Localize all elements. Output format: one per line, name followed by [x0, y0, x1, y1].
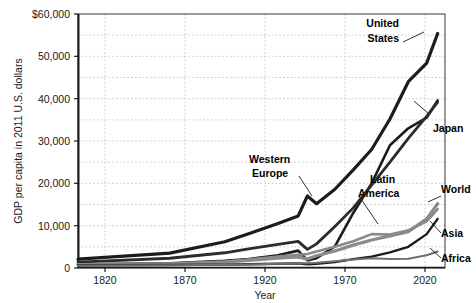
- y-tick-label-10000: 10,000: [38, 220, 70, 232]
- chart-svg: $60,000 50,000 40,000 30,000 20,000 10,0…: [0, 0, 476, 303]
- x-tick-label-1820: 1820: [93, 274, 117, 286]
- y-tick-label-40000: 40,000: [38, 93, 70, 105]
- series-label-western-europe-line1: Western: [249, 153, 290, 165]
- x-tick-label-1920: 1920: [253, 274, 277, 286]
- series-label-japan: Japan: [433, 122, 463, 134]
- x-tick-label-1870: 1870: [173, 274, 197, 286]
- y-axis-title: GDP per capita in 2011 U.S. dollars: [12, 58, 24, 223]
- series-label-africa: Africa: [441, 252, 471, 264]
- series-label-western-europe-line2: Europe: [252, 167, 288, 179]
- y-tick-label-0: 0: [64, 262, 70, 274]
- x-axis-title: Year: [254, 289, 276, 301]
- x-tick-label-1970: 1970: [333, 274, 357, 286]
- gdp-per-capita-chart: $60,000 50,000 40,000 30,000 20,000 10,0…: [0, 0, 476, 303]
- series-label-world: World: [441, 183, 471, 195]
- series-label-latin-america-line2: America: [358, 187, 400, 199]
- y-tick-label-50000: 50,000: [38, 50, 70, 62]
- x-tick-label-2020: 2020: [413, 274, 437, 286]
- series-label-latin-america-line1: Latin: [370, 173, 395, 185]
- y-tick-label-20000: 20,000: [38, 177, 70, 189]
- y-tick-marks: [74, 14, 78, 268]
- y-tick-label-60000: $60,000: [32, 8, 70, 20]
- series-label-united-states-line2: States: [367, 32, 399, 44]
- y-tick-label-30000: 30,000: [38, 135, 70, 147]
- series-label-asia: Asia: [441, 227, 463, 239]
- series-label-united-states-line1: United: [366, 17, 399, 29]
- x-tick-marks: [105, 268, 425, 272]
